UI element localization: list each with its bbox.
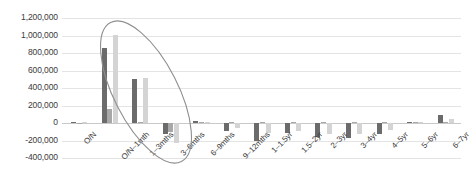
bar bbox=[260, 122, 265, 123]
bar bbox=[113, 35, 118, 123]
bar bbox=[291, 122, 296, 123]
bar-group bbox=[407, 0, 423, 192]
bar-group bbox=[315, 0, 331, 192]
bar bbox=[413, 122, 418, 123]
y-axis-tick-label: -200,000 bbox=[0, 136, 58, 145]
y-axis-tick-label: -400,000 bbox=[0, 153, 58, 162]
bar-group bbox=[163, 0, 179, 192]
bar-group bbox=[102, 0, 118, 192]
bar bbox=[327, 123, 332, 134]
bar bbox=[388, 123, 393, 130]
bar bbox=[357, 123, 362, 134]
bar bbox=[174, 123, 179, 143]
bar bbox=[205, 122, 210, 123]
y-axis-tick-label: 1,000,000 bbox=[0, 31, 58, 40]
bar bbox=[224, 123, 229, 131]
bar bbox=[102, 48, 107, 123]
bar-group bbox=[71, 0, 87, 192]
bar bbox=[107, 109, 112, 123]
bar bbox=[321, 122, 326, 123]
bar bbox=[377, 123, 382, 134]
bar bbox=[82, 122, 87, 123]
bar bbox=[443, 122, 448, 123]
bar bbox=[229, 122, 234, 123]
y-axis-tick-label: 0 bbox=[0, 118, 58, 127]
bar bbox=[235, 123, 240, 128]
bar-group bbox=[193, 0, 209, 192]
bar bbox=[382, 122, 387, 123]
bar bbox=[138, 122, 143, 123]
bar-group bbox=[377, 0, 393, 192]
bar bbox=[407, 122, 412, 123]
bar bbox=[71, 122, 76, 123]
bar bbox=[449, 119, 454, 123]
bar-group bbox=[132, 0, 148, 192]
bar-group bbox=[224, 0, 240, 192]
y-axis-tick-label: 600,000 bbox=[0, 66, 58, 75]
bar-series-container bbox=[62, 0, 463, 192]
bar bbox=[143, 78, 148, 123]
bar-group bbox=[254, 0, 270, 192]
y-axis-tick-label: 1,200,000 bbox=[0, 13, 58, 22]
y-axis: 1,200,0001,000,000800,000600,000400,0002… bbox=[0, 0, 58, 192]
bar bbox=[193, 121, 198, 123]
bar-group bbox=[438, 0, 454, 192]
bar-group bbox=[285, 0, 301, 192]
bar bbox=[132, 79, 137, 123]
y-axis-tick-label: 800,000 bbox=[0, 48, 58, 57]
bar bbox=[296, 123, 301, 131]
bar bbox=[438, 115, 443, 123]
y-axis-tick-label: 200,000 bbox=[0, 101, 58, 110]
bar bbox=[199, 122, 204, 123]
plot-area bbox=[62, 0, 463, 192]
y-axis-tick-label: 400,000 bbox=[0, 83, 58, 92]
bar bbox=[77, 123, 82, 124]
bar bbox=[418, 122, 423, 123]
bar-group bbox=[346, 0, 362, 192]
bar bbox=[352, 122, 357, 123]
